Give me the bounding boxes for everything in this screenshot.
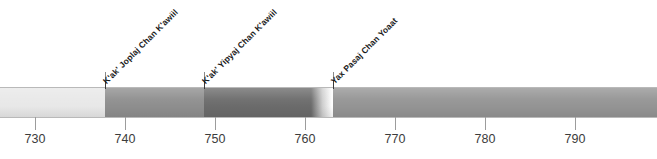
accession-label-yax-pasaj-chan-yoaat: Yax Pasaj Chan Yoaat	[329, 16, 399, 86]
segment-sheen	[333, 88, 657, 117]
segment-sheen	[0, 88, 105, 117]
axis-tick-label-730: 730	[25, 132, 46, 146]
axis-tick-790	[575, 117, 576, 130]
axis-tick-740	[125, 117, 126, 130]
axis-tick-label-780: 780	[475, 132, 496, 146]
axis-tick-770	[395, 117, 396, 130]
segment-sheen	[105, 88, 204, 117]
axis-tick-760	[305, 117, 306, 130]
year-axis: 730 740 750 760 770 780 790	[0, 117, 657, 159]
axis-tick-label-760: 760	[295, 132, 316, 146]
reign-segment-0[interactable]	[0, 88, 105, 117]
accession-label-kak-yipyaj-chan-kawiil: K'ak' Yipyaj Chan K'awiil	[200, 7, 279, 86]
axis-tick-780	[485, 117, 486, 130]
axis-tick-label-740: 740	[115, 132, 136, 146]
reign-segment-yax-pasaj-chan-yoaat[interactable]	[333, 88, 657, 117]
reign-bar	[0, 88, 657, 117]
axis-tick-label-790: 790	[565, 132, 586, 146]
reign-segment-kak-yipyaj-chan-kawiil[interactable]	[204, 88, 333, 117]
axis-tick-730	[35, 117, 36, 130]
ruler-reign-timeline-figure: K'ak' Joplaj Chan K'awiil K'ak' Yipyaj C…	[0, 0, 657, 159]
accession-label-kak-joplaj-chan-kawiil: K'ak' Joplaj Chan K'awiil	[101, 7, 180, 86]
axis-tick-750	[215, 117, 216, 130]
axis-tick-label-750: 750	[205, 132, 226, 146]
segment-sheen	[204, 88, 333, 117]
axis-tick-label-770: 770	[385, 132, 406, 146]
reign-segment-kak-joplaj-chan-kawiil[interactable]	[105, 88, 204, 117]
